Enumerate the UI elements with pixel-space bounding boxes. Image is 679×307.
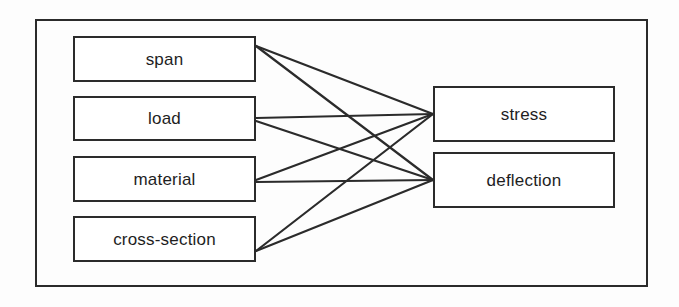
diagram-canvas: span load material cross-section stress …	[0, 0, 679, 307]
node-stress-label: stress	[501, 105, 548, 122]
node-load[interactable]: load	[73, 96, 256, 141]
node-span[interactable]: span	[73, 36, 256, 82]
node-stress[interactable]: stress	[433, 86, 615, 142]
node-span-label: span	[146, 50, 184, 67]
node-cross-section[interactable]: cross-section	[73, 216, 256, 262]
node-deflection[interactable]: deflection	[433, 152, 615, 208]
node-load-label: load	[148, 110, 181, 127]
node-material-label: material	[133, 170, 195, 187]
node-cross-section-label: cross-section	[113, 230, 216, 247]
node-deflection-label: deflection	[487, 171, 562, 188]
node-material[interactable]: material	[73, 156, 256, 202]
